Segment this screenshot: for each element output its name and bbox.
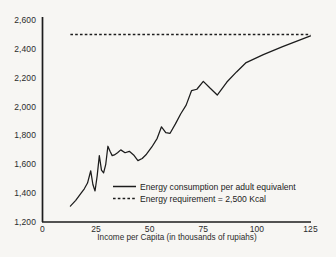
y-tick-label: 1,600 [4,159,36,169]
chart-background [0,0,336,257]
line-chart-canvas [0,0,336,257]
legend-label-energy-consumption: Energy consumption per adult equivalent [140,182,296,192]
y-tick-label: 2,600 [4,15,36,25]
chart-figure: 1,2001,4001,6001,8002,0002,2002,4002,600… [0,0,336,257]
x-axis-title: Income per Capita (in thousands of rupia… [42,233,312,242]
y-tick-label: 2,400 [4,44,36,54]
y-tick-label: 2,000 [4,102,36,112]
legend-label-energy-requirement: Energy requirement = 2,500 Kcal [140,194,266,204]
y-tick-label: 1,800 [4,130,36,140]
y-tick-label: 2,200 [4,73,36,83]
y-tick-label: 1,400 [4,188,36,198]
